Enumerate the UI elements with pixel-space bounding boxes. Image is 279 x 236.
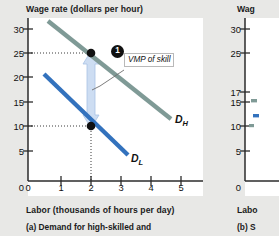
panel-b-partial-curves	[249, 99, 259, 127]
panel-b-x-axis-title: Labo	[237, 205, 258, 215]
point-low-skilled	[87, 122, 96, 131]
panel-b-graphics	[215, 0, 279, 236]
dh-label-text: D	[175, 113, 183, 125]
figure-root: Wage rate (dollars per hour) 30 25 20 15…	[0, 0, 279, 236]
dh-label-sub: H	[183, 119, 188, 128]
panel-a-demand-chart: Wage rate (dollars per hour) 30 25 20 15…	[0, 0, 215, 236]
panel-a-caption: (a) Demand for high-skilled and	[26, 222, 151, 232]
panel-a-x-axis-title: Labor (thousands of hours per day)	[26, 205, 175, 215]
point-high-skilled	[87, 49, 96, 58]
curve-demand-low	[44, 74, 128, 155]
curve-demand-high	[48, 21, 171, 119]
panel-b-supply-chart: Wag 30 25 17 15 10 5 0	[215, 0, 279, 236]
curve-label-demand-low: DL	[131, 152, 143, 167]
panel-b-caption: (b) S	[237, 222, 256, 232]
panel-a-guide-lines	[28, 53, 91, 181]
dl-label-text: D	[131, 152, 139, 164]
panel-a-axes	[28, 18, 203, 181]
panel-b-axes	[245, 18, 279, 181]
callout-number-badge: 1	[111, 45, 124, 58]
curve-label-demand-high: DH	[175, 113, 188, 128]
callout-vmp-of-skill: VMP of skill	[124, 53, 174, 67]
dl-label-sub: L	[139, 158, 144, 167]
